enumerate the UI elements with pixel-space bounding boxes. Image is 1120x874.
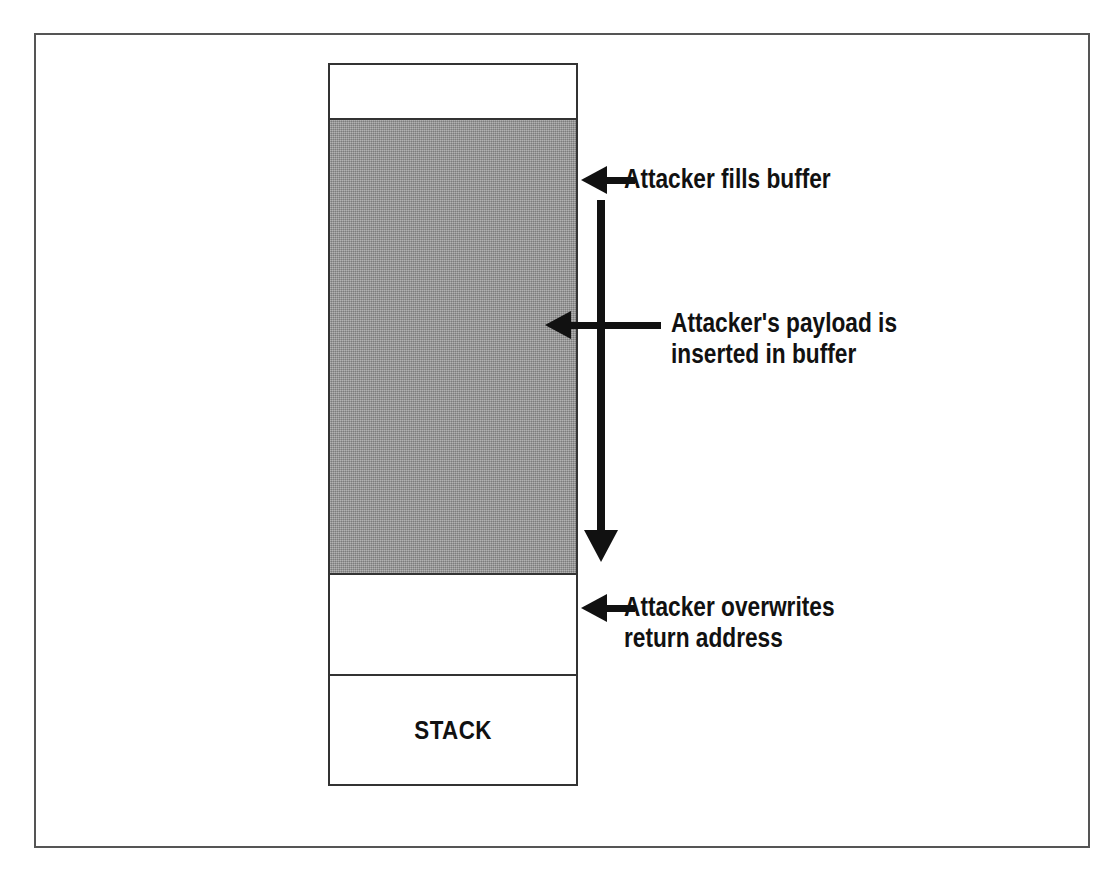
arrowhead [584, 530, 618, 562]
annotation-line-1: Attacker's payload is [671, 308, 897, 338]
annotation-line-2: return address [624, 623, 783, 653]
arrow-shaft [567, 322, 661, 329]
memory-segment-free-top [328, 63, 578, 120]
memory-segment-stack: STACK [328, 674, 578, 786]
arrow-shaft [597, 200, 605, 534]
stack-segment-label: STACK [414, 715, 492, 746]
annotation-line-2: inserted in buffer [671, 339, 856, 369]
down-arrow-icon-buffer-flow [597, 200, 605, 562]
memory-segment-buffer [328, 118, 578, 575]
annotation-overwrites-return-address: Attacker overwritesreturn address [624, 592, 835, 654]
memory-segment-return-address [328, 573, 578, 676]
annotation-fills-buffer: Attacker fills buffer [624, 164, 831, 195]
diagram-canvas: STACK Attacker fills buffer Attacker's p… [0, 0, 1120, 874]
annotation-payload-inserted: Attacker's payload isinserted in buffer [671, 308, 897, 370]
annotation-line-1: Attacker overwrites [624, 592, 835, 622]
